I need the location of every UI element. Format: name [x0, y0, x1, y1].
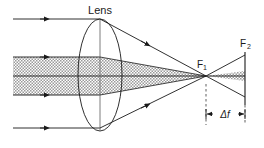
- arrowhead-marginal-top: [141, 41, 148, 45]
- focus-near-subscript: 1: [203, 64, 207, 71]
- focus-far-subscript: 2: [247, 43, 251, 50]
- delta-f-label: Δf: [219, 109, 231, 120]
- lens-label: Lens: [88, 4, 112, 16]
- focus-far-label: F: [240, 38, 246, 49]
- diagram-canvas: Lens F 1 F 2 Δf: [0, 0, 264, 148]
- spherical-aberration-diagram: Lens F 1 F 2 Δf: [0, 0, 264, 148]
- arrowhead-marginal-bottom: [141, 105, 148, 109]
